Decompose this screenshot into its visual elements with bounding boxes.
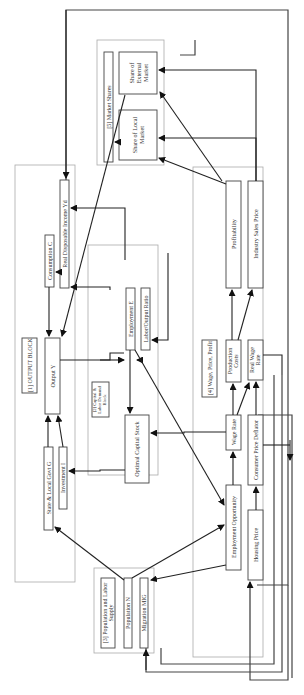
- node-real-wage-rate: Real WageRate: [248, 340, 263, 380]
- output-block-header: [1] OUTPUT BLOCK: [22, 337, 37, 393]
- svg-text:Employment E: Employment E: [128, 301, 134, 337]
- node-employment-opportunity: Employment Opportunity: [226, 485, 241, 570]
- capital-labor-header: [2] Capital &Labor DemandBlock: [92, 382, 109, 417]
- svg-text:State & Local Govt G: State & Local Govt G: [46, 461, 52, 514]
- svg-text:Output Y: Output Y: [49, 364, 56, 388]
- node-optimal-capital-stock: Optimal Capital Stock: [125, 415, 149, 483]
- svg-text:Optimal Capital Stock: Optimal Capital Stock: [133, 420, 140, 476]
- node-population-n: Population N: [124, 578, 132, 648]
- node-share-local: Share of LocalMarket: [119, 110, 157, 160]
- node-real-disposable-income: Real Disposable Income Yd: [60, 180, 69, 288]
- population-header: [3] Population and LaborSupply: [101, 578, 115, 648]
- svg-text:Consumption C: Consumption C: [47, 242, 53, 280]
- svg-text:Housing Price: Housing Price: [253, 528, 259, 563]
- svg-text:Labor/Output Ratio: Labor/Output Ratio: [143, 295, 149, 342]
- svg-text:Real Disposable Income Yd: Real Disposable Income Yd: [62, 200, 68, 267]
- node-labor-output-ratio: Labor/Output Ratio: [141, 288, 150, 350]
- svg-text:Wage Rate: Wage Rate: [231, 419, 237, 445]
- wage-price-header: [4] Wage, Price, Profit: [202, 340, 217, 397]
- node-share-external: Share ofExternalMarket: [119, 52, 157, 94]
- node-employment: Employment E: [126, 288, 135, 350]
- svg-text:Share ofExternalMarket: Share ofExternalMarket: [128, 62, 149, 84]
- svg-text:[5] Market Shares: [5] Market Shares: [106, 85, 113, 129]
- node-migration: Migration MIG: [140, 578, 148, 648]
- svg-text:Consumer Price Deflator: Consumer Price Deflator: [253, 420, 259, 480]
- node-consumption: Consumption C: [45, 235, 54, 287]
- svg-text:[4] Wage, Price, Profit: [4] Wage, Price, Profit: [207, 341, 214, 395]
- svg-text:Population N: Population N: [125, 596, 131, 629]
- node-production-costs: ProductionCosts: [226, 340, 241, 382]
- node-output-y: Output Y: [45, 338, 60, 414]
- svg-text:Investment I: Investment I: [60, 463, 66, 493]
- economic-model-diagram: [5] Market Shares Share ofExternalMarket…: [0, 0, 304, 695]
- svg-text:Profitability: Profitability: [230, 218, 237, 249]
- svg-text:Employment Opportunity: Employment Opportunity: [231, 496, 237, 558]
- node-industry-sales-price: Industry Sales Price: [248, 181, 263, 288]
- node-profitability: Profitability: [226, 181, 241, 288]
- node-consumer-price-deflator: Consumer Price Deflator: [248, 415, 263, 485]
- svg-text:Industry Sales Price: Industry Sales Price: [252, 209, 259, 259]
- node-housing-price: Housing Price: [248, 510, 263, 580]
- node-wage-rate: Wage Rate: [226, 415, 241, 450]
- svg-text:Migration MIG: Migration MIG: [141, 594, 147, 632]
- svg-text:[1] OUTPUT BLOCK: [1] OUTPUT BLOCK: [27, 337, 34, 392]
- node-investment: Investment I: [59, 447, 67, 509]
- node-state-local-govt: State & Local Govt G: [44, 447, 53, 530]
